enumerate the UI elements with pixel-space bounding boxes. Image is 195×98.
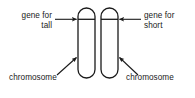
chromosome-right xyxy=(101,8,118,78)
label-gene-for-short-line2: short xyxy=(144,21,194,31)
label-gene-for-tall-line2: tall xyxy=(6,21,52,31)
label-gene-for-short-line1: gene for xyxy=(144,11,194,21)
chromosome-left xyxy=(78,8,95,78)
label-gene-for-tall: gene for tall xyxy=(6,11,52,30)
chromosome-left-arrow xyxy=(57,58,77,76)
chromosome-gene-diagram: gene for tall gene for short chromosome … xyxy=(0,0,195,98)
label-chromosome-right: chromosome xyxy=(126,73,174,83)
label-gene-for-short: gene for short xyxy=(144,11,194,30)
label-gene-for-tall-line1: gene for xyxy=(6,11,52,21)
label-chromosome-left: chromosome xyxy=(9,73,57,83)
